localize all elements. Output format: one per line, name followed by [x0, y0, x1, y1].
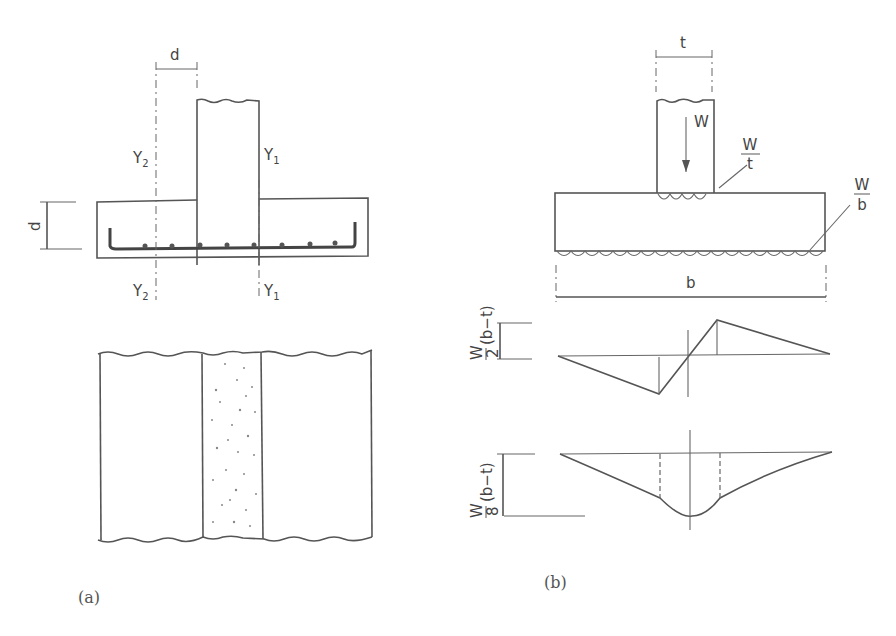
label-y1-bottom: Y1	[263, 282, 280, 302]
load-arrow-head	[682, 160, 690, 172]
plan-left-edge	[100, 354, 101, 540]
dim-top-d-label: d	[170, 46, 180, 64]
moment-diagram: W 8 (b−t)	[468, 430, 832, 530]
shear-diagram: W 2 (b−t)	[468, 305, 830, 397]
leader-line-column	[719, 165, 747, 188]
svg-text:(b−t): (b−t)	[478, 305, 496, 345]
dim-left-d-label: d	[26, 221, 44, 231]
column-stipple	[211, 363, 257, 527]
moment-curve	[560, 452, 832, 516]
svg-text:(b−t): (b−t)	[478, 462, 496, 502]
column-right-edge	[261, 352, 263, 539]
load-label: W	[694, 113, 709, 131]
svg-text:2: 2	[484, 348, 502, 358]
leader-line-base	[810, 205, 850, 250]
column-pressure-den: t	[747, 155, 753, 173]
plan-top-edge	[98, 350, 372, 356]
plan-right-edge	[371, 350, 372, 537]
column-outline	[197, 99, 259, 265]
label-y1-top: Y1	[263, 146, 280, 166]
moment-baseline	[560, 452, 832, 454]
column-pressure-num: W	[743, 136, 758, 154]
plan-bottom-edge	[98, 536, 372, 542]
base-pressure-den: b	[857, 196, 867, 214]
panel-a-section: d d Y2 Y1 Y2 Y1	[26, 46, 368, 302]
panel-a-plan	[98, 350, 372, 542]
shear-curve	[558, 320, 830, 394]
caption-b: (b)	[544, 573, 567, 592]
shear-baseline	[558, 354, 830, 356]
caption-a: (a)	[78, 588, 100, 607]
column-pressure-bumps	[658, 194, 706, 199]
base-pressure-num: W	[855, 176, 870, 194]
dim-t-label: t	[680, 34, 686, 52]
column-left-edge	[202, 354, 203, 537]
panel-b-load: t W W t W b b	[555, 34, 870, 302]
label-y2-top: Y2	[132, 149, 149, 169]
footing-outline-b	[555, 193, 825, 251]
svg-text:8: 8	[484, 506, 502, 516]
label-y2-bottom: Y2	[132, 282, 149, 302]
footing-diagram: d d Y2 Y1 Y2 Y1 (a)	[0, 0, 896, 636]
moment-label: W 8 (b−t)	[468, 462, 502, 518]
dim-b-label: b	[686, 274, 696, 292]
shear-label: W 2 (b−t)	[468, 305, 502, 360]
